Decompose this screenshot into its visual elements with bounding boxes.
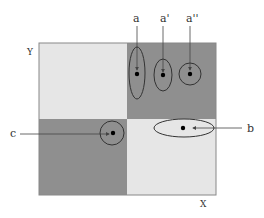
quadrant-diagram: Y X a a' a'' c b bbox=[0, 0, 264, 218]
point-b-dot bbox=[181, 126, 185, 130]
quadrant-bottom-right bbox=[127, 119, 216, 195]
quadrant-top-left bbox=[39, 43, 127, 119]
point-b-label: b bbox=[247, 122, 254, 135]
point-c-dot bbox=[111, 131, 115, 135]
point-a-dot bbox=[135, 72, 139, 76]
point-a-double-prime-dot bbox=[188, 72, 192, 76]
point-a-label: a bbox=[133, 12, 140, 25]
x-axis-label: X bbox=[200, 199, 207, 209]
point-c-label: c bbox=[10, 127, 16, 140]
point-a-prime-label: a' bbox=[160, 12, 170, 25]
point-a-prime-dot bbox=[161, 73, 165, 77]
quadrant-bottom-left bbox=[39, 119, 127, 195]
y-axis-label: Y bbox=[26, 47, 34, 57]
point-a-double-prime-label: a'' bbox=[186, 12, 199, 25]
